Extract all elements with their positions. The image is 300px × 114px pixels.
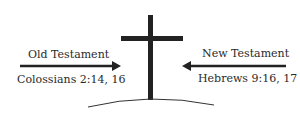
colossians-reference: Colossians 2:14, 16 xyxy=(17,73,125,86)
hill-arc xyxy=(88,99,214,107)
cross-icon xyxy=(121,15,183,100)
arrow-left-icon xyxy=(182,61,286,71)
hebrews-reference: Hebrews 9:16, 17 xyxy=(198,72,297,85)
old-testament-label: Old Testament xyxy=(28,48,109,61)
arrow-right-icon xyxy=(20,61,121,71)
new-testament-label: New Testament xyxy=(202,47,289,60)
